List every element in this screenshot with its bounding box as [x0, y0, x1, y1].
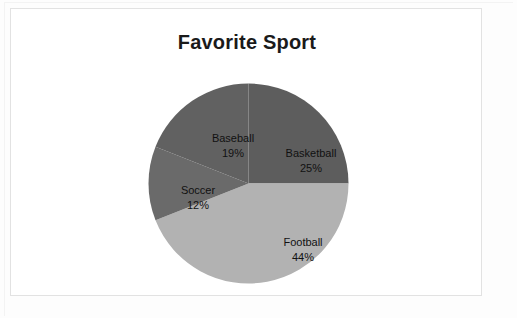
page-edge-left: [4, 2, 5, 316]
pie-chart: Basketball25%Football44%Soccer12%Basebal…: [146, 81, 351, 286]
pie-label-baseball: Baseball: [212, 132, 254, 144]
pie-value-baseball: 19%: [222, 147, 244, 159]
page-edge-top: [4, 2, 513, 3]
pie-label-football: Football: [283, 236, 322, 248]
page-background: Favorite Sport Basketball25%Football44%S…: [0, 0, 517, 318]
chart-title: Favorite Sport: [11, 31, 483, 54]
chart-card: Favorite Sport Basketball25%Football44%S…: [10, 8, 482, 296]
pie-value-soccer: 12%: [187, 199, 209, 211]
pie-chart-svg: Basketball25%Football44%Soccer12%Basebal…: [146, 81, 351, 286]
pie-slice-basketball[interactable]: [249, 84, 349, 184]
pie-label-basketball: Basketball: [286, 147, 337, 159]
pie-value-basketball: 25%: [300, 162, 322, 174]
pie-value-football: 44%: [292, 251, 314, 263]
pie-label-soccer: Soccer: [181, 184, 216, 196]
